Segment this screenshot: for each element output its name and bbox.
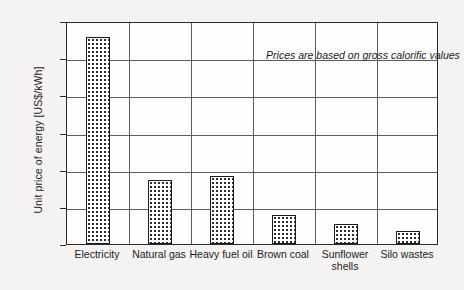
y-axis-tick-mark	[60, 245, 66, 246]
x-axis-category-label-line: shells	[308, 261, 382, 273]
gridline-vertical	[129, 23, 130, 244]
gridline-horizontal	[67, 172, 437, 173]
bar	[272, 215, 297, 244]
bar	[86, 37, 111, 244]
x-axis-category-label-line: Silo wastes	[370, 249, 444, 261]
bar	[148, 180, 173, 244]
gridline-horizontal	[67, 135, 437, 136]
gridline-vertical	[191, 23, 192, 244]
gridline-horizontal	[67, 97, 437, 98]
bar	[210, 176, 235, 244]
bar	[334, 224, 359, 244]
bar	[396, 231, 421, 244]
y-axis-title: Unit price of energy [US$/kWh]	[32, 40, 44, 240]
plot-area: Prices are based on gross calorific valu…	[66, 22, 438, 245]
x-axis-category-label: Silo wastes	[370, 249, 444, 261]
chart-annotation: Prices are based on gross calorific valu…	[227, 49, 464, 61]
gridline-horizontal	[67, 209, 437, 210]
